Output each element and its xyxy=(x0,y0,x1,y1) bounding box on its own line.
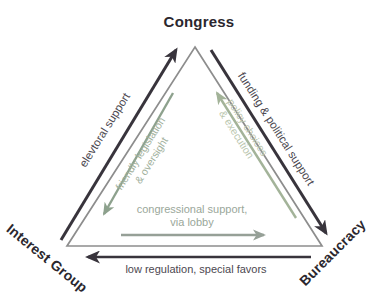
node-label-interest-group: Interest Group xyxy=(4,221,91,296)
edge-label-low-regulation: low regulation, special favors xyxy=(125,263,267,275)
node-label-congress: Congress xyxy=(164,13,235,30)
edge-label-congressional-support-line2: via lobby xyxy=(170,216,214,228)
edge-label-congressional-support-line1: congressional support, xyxy=(137,203,248,215)
diagram-canvas: Congress Interest Group Bureaucracy elev… xyxy=(0,0,381,305)
edge-label-congressional-support: congressional support, via lobby xyxy=(137,203,248,228)
iron-triangle-diagram: Congress Interest Group Bureaucracy elev… xyxy=(0,0,381,305)
edge-label-friendly-legislation: friendly legislation & oversight xyxy=(113,115,179,199)
node-label-bureaucracy: Bureaucracy xyxy=(296,216,369,289)
